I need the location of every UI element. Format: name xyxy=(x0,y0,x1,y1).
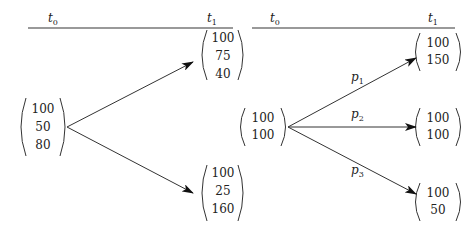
left-root-vector: 100 50 80 xyxy=(21,98,65,156)
right-down-arrow xyxy=(288,127,416,194)
svg-text:100: 100 xyxy=(212,166,235,180)
svg-text:80: 80 xyxy=(35,138,50,152)
right-mid-vector: 100 100 xyxy=(416,108,461,146)
left-t1-label: t1 xyxy=(207,11,217,27)
svg-text:50: 50 xyxy=(35,120,50,134)
binomial-trinomial-tree-diagram: t0 t1 100 50 80 100 75 40 100 25 160 xyxy=(0,0,476,230)
svg-text:100: 100 xyxy=(427,186,450,200)
svg-text:150: 150 xyxy=(427,53,450,67)
right-down-vector: 100 50 xyxy=(416,183,461,221)
svg-text:25: 25 xyxy=(215,184,230,198)
left-up-vector: 100 75 40 xyxy=(202,30,243,81)
left-down-arrow xyxy=(67,127,193,193)
svg-text:50: 50 xyxy=(430,203,445,217)
svg-text:75: 75 xyxy=(215,49,230,63)
right-t1-label: t1 xyxy=(428,11,438,27)
svg-text:100: 100 xyxy=(32,102,55,116)
right-root-vector: 100 100 xyxy=(241,108,286,146)
right-up-vector: 100 150 xyxy=(416,33,461,71)
left-down-vector: 100 25 160 xyxy=(202,165,243,221)
svg-text:100: 100 xyxy=(427,111,450,125)
svg-text:40: 40 xyxy=(215,67,230,81)
svg-text:100: 100 xyxy=(252,128,275,142)
right-tree: t0 t1 100 100 100 150 100 100 100 xyxy=(241,11,461,221)
left-tree: t0 t1 100 50 80 100 75 40 100 25 160 xyxy=(21,11,243,221)
svg-text:100: 100 xyxy=(427,36,450,50)
probability-p1-label: p1 xyxy=(351,70,364,86)
left-up-arrow xyxy=(67,62,193,127)
svg-text:100: 100 xyxy=(252,111,275,125)
left-t0-label: t0 xyxy=(48,11,58,27)
probability-p2-label: p2 xyxy=(351,107,364,123)
svg-text:100: 100 xyxy=(427,128,450,142)
svg-text:160: 160 xyxy=(212,202,235,216)
svg-text:100: 100 xyxy=(212,31,235,45)
right-t0-label: t0 xyxy=(270,11,280,27)
